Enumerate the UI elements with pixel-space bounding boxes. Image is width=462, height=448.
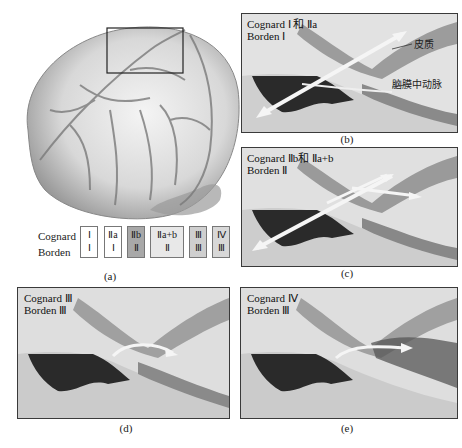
legend-col-1: Ⅰ Ⅰ: [80, 226, 98, 258]
panel-c-title: Cognard Ⅱb和 Ⅱa+b Borden Ⅱ: [247, 152, 333, 176]
panel-c-title-cognard: Cognard Ⅱb和 Ⅱa+b: [247, 152, 333, 164]
legend-cognard-value: Ⅲ: [190, 228, 206, 241]
caption-d: (d): [106, 422, 146, 434]
panel-e-title: Cognard Ⅳ Borden Ⅲ: [247, 292, 298, 316]
legend-borden-value: Ⅲ: [213, 241, 229, 254]
legend-col-3: Ⅱb Ⅱ: [127, 226, 145, 258]
legend-borden-value: Ⅰ: [105, 241, 121, 254]
panel-d: Cognard Ⅲ Borden Ⅲ: [17, 287, 230, 419]
legend-col-5: Ⅲ Ⅲ: [189, 226, 207, 258]
caption-c: (c): [327, 267, 367, 279]
caption-e: (e): [327, 422, 367, 434]
legend-cognard-value: Ⅱb: [128, 228, 144, 241]
panel-d-title: Cognard Ⅲ Borden Ⅲ: [24, 292, 73, 316]
legend-cognard-value: Ⅰ: [81, 228, 97, 241]
legend-borden-value: Ⅰ: [81, 241, 97, 254]
panel-e-title-borden: Borden Ⅲ: [247, 304, 298, 316]
legend-col-6: Ⅳ Ⅲ: [212, 226, 230, 258]
panel-b: Cognard Ⅰ 和 Ⅱa Borden Ⅰ 皮质 脑膜中动脉: [241, 13, 458, 133]
panel-d-title-borden: Borden Ⅲ: [24, 304, 73, 316]
legend-cognard-value: Ⅱa+b: [151, 228, 183, 241]
legend-borden-label: Borden: [38, 246, 70, 258]
legend-borden-value: Ⅲ: [190, 241, 206, 254]
panel-c: Cognard Ⅱb和 Ⅱa+b Borden Ⅱ: [241, 147, 458, 267]
legend-cognard-value: Ⅳ: [213, 228, 229, 241]
legend-borden-value: Ⅱ: [128, 241, 144, 254]
legend-cognard-value: Ⅱa: [105, 228, 121, 241]
caption-b: (b): [327, 133, 367, 145]
legend-cognard-label: Cognard: [38, 230, 76, 242]
annotation-cortex: 皮质: [414, 36, 434, 51]
legend-col-4: Ⅱa+b Ⅱ: [150, 226, 184, 258]
caption-a: (a): [90, 270, 130, 282]
panel-c-title-borden: Borden Ⅱ: [247, 164, 333, 176]
panel-b-title-cognard: Cognard Ⅰ 和 Ⅱa: [247, 18, 317, 30]
panel-d-title-cognard: Cognard Ⅲ: [24, 292, 73, 304]
panel-e-title-cognard: Cognard Ⅳ: [247, 292, 298, 304]
legend-col-2: Ⅱa Ⅰ: [104, 226, 122, 258]
panel-e: Cognard Ⅳ Borden Ⅲ: [240, 287, 458, 419]
annotation-middle-meningeal-artery: 脑膜中动脉: [392, 76, 442, 91]
brain-illustration: [10, 10, 242, 225]
panel-b-title-borden: Borden Ⅰ: [247, 30, 317, 42]
legend-borden-value: Ⅱ: [151, 241, 183, 254]
panel-b-title: Cognard Ⅰ 和 Ⅱa Borden Ⅰ: [247, 18, 317, 42]
